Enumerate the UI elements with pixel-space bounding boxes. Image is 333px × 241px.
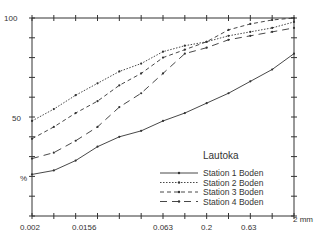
y-tick-50: 50	[12, 114, 21, 123]
x-tick-2mm: 2 mm	[293, 215, 313, 224]
series-line-station-2	[32, 22, 294, 121]
legend-label-station-2: Station 2 Boden	[203, 178, 264, 188]
x-tick-0.002: 0.002	[20, 223, 41, 232]
x-tick-0.063: 0.063	[153, 223, 174, 232]
y-tick-100: 100	[4, 14, 18, 23]
data-series	[31, 17, 295, 176]
chart-title: Lautoka	[203, 150, 239, 161]
legend-label-station-3: Station 3 Boden	[203, 187, 264, 197]
legend-label-station-4: Station 4 Boden	[203, 197, 264, 207]
x-tick-0.63: 0.63	[241, 223, 257, 232]
x-tick-0.2: 0.2	[201, 223, 213, 232]
x-tick-0.0156: 0.0156	[72, 223, 97, 232]
y-axis-unit: %	[20, 174, 27, 183]
legend-label-station-1: Station 1 Boden	[203, 168, 264, 178]
series-line-station-1	[32, 54, 294, 175]
legend: Station 1 BodenStation 2 BodenStation 3 …	[160, 168, 264, 207]
series-line-station-4	[32, 28, 294, 159]
grain-size-chart: 100 50 % 0.002 0.0156 0.063 0.2 0.63 2 m…	[0, 0, 333, 241]
